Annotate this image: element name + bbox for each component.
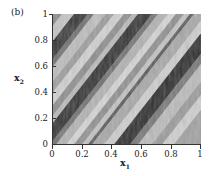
- y-tick-label: 0.2: [22, 113, 48, 123]
- y-tick-label: 0.6: [22, 61, 48, 71]
- x-tick-label: 0.2: [70, 149, 94, 159]
- x-tick-label: 1: [188, 149, 211, 159]
- y-tick-mark: [52, 40, 56, 41]
- y-tick-mark: [49, 14, 53, 15]
- y-tick-label: 0.4: [22, 87, 48, 97]
- y-tick-label: 1: [22, 9, 48, 19]
- x-tick-label: 0: [40, 149, 64, 159]
- x-axis-label: x1: [120, 157, 130, 170]
- y-axis-label: x2: [14, 72, 24, 85]
- axes-frame: [52, 14, 201, 145]
- x-tick-label: 0.8: [159, 149, 183, 159]
- x-tick-label: 0.6: [129, 149, 153, 159]
- y-tick-label: 0: [22, 139, 48, 149]
- y-tick-mark: [52, 118, 56, 119]
- y-tick-mark: [52, 92, 56, 93]
- y-tick-label: 0.8: [22, 35, 48, 45]
- y-tick-mark: [52, 66, 56, 67]
